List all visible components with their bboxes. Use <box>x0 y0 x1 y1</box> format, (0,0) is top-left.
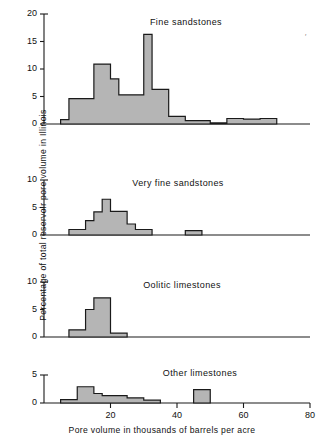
y-tick-label-4-0: 0 <box>4 397 37 407</box>
y-tick-label-2-5: 5 <box>4 202 37 212</box>
y-axis-label: Percentage of total reservoir pore volum… <box>38 95 48 335</box>
y-tick-label-2-0: 0 <box>4 229 37 239</box>
histogram-figure: Percentage of total reservoir pore volum… <box>0 0 324 443</box>
y-tick-label-3-10: 10 <box>4 276 37 286</box>
y-tick-label-1-5: 5 <box>4 91 37 101</box>
y-tick-label-4-5: 5 <box>4 369 37 379</box>
y-tick-label-1-0: 0 <box>4 118 37 128</box>
x-tick-label-60: 60 <box>224 410 264 420</box>
histogram-run <box>61 34 277 124</box>
x-tick-label-40: 40 <box>157 410 197 420</box>
y-tick-label-3-0: 0 <box>4 331 37 341</box>
histogram-run <box>69 298 127 337</box>
x-tick-label-80: 80 <box>290 410 324 420</box>
y-tick-label-1-15: 15 <box>4 36 37 46</box>
panel-title-4: Other limestones <box>163 368 237 378</box>
panel-title-2: Very fine sandstones <box>132 178 224 188</box>
x-axis-label: Pore volume in thousands of barrels per … <box>0 425 324 435</box>
y-tick-label-1-10: 10 <box>4 63 37 73</box>
y-tick-label-1-20: 20 <box>4 8 37 18</box>
y-tick-label-2-10: 10 <box>4 174 37 184</box>
panel-title-1: Fine sandstones <box>150 17 222 27</box>
histogram-run <box>194 390 211 403</box>
histogram-run <box>69 199 152 235</box>
panel-title-3: Oolitic limestones <box>143 280 221 290</box>
x-tick-label-20: 20 <box>91 410 131 420</box>
histogram-run <box>185 231 202 235</box>
y-tick-label-3-5: 5 <box>4 304 37 314</box>
stray-ink-mark: ′ <box>305 33 306 40</box>
histogram-run <box>61 387 161 403</box>
